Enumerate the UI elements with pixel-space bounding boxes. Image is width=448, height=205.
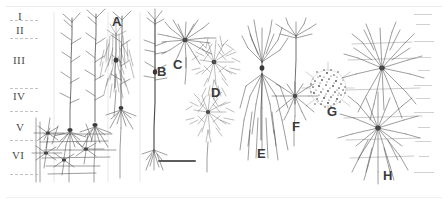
layer-boundary-1 [10,20,38,21]
scale-bar [158,160,196,162]
panel-A-cell [100,22,134,116]
layer-label-III: III [13,54,25,66]
figure-canvas: I II III IV V VI A B C D E F G H [0,0,448,205]
layer-label-II: II [16,24,24,36]
layer-boundary-4 [10,111,38,112]
panel-label-G: G [327,104,337,119]
panel-label-A: A [112,14,121,29]
panel-label-H: H [383,168,392,183]
panel-label-B: B [157,64,166,79]
panel-label-E: E [257,146,266,161]
panel-B-cell [142,9,167,170]
layer-boundary-3 [10,88,38,89]
panel-label-D: D [211,85,220,100]
panel-H-cells [338,22,424,184]
panel-label-F: F [292,119,300,134]
panel-E-cell [240,20,288,160]
pyramidal-array-left [32,9,136,182]
layer-label-IV: IV [13,90,25,102]
layer-boundary-6 [10,174,38,175]
panel-label-C: C [173,57,182,72]
layer-boundary-5 [10,140,38,141]
neuron-drawings [0,0,448,205]
layer-boundary-2 [10,38,38,39]
layer-label-V: V [16,121,24,133]
layer-label-VI: VI [12,149,24,161]
